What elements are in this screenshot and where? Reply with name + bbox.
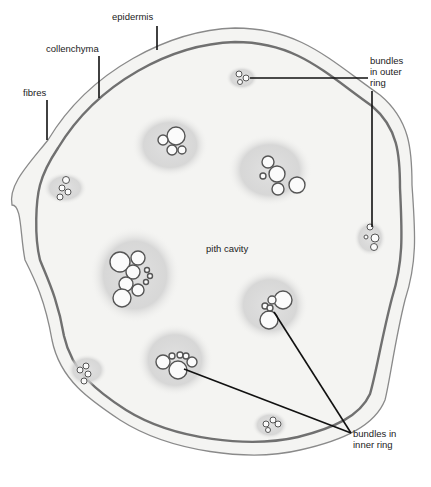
label-fibres: fibres [23,87,46,98]
label-collenchyma: collenchyma [46,43,99,54]
stem-cross-section-diagram: epidermis collenchyma fibres bundles in … [0,0,431,487]
label-pith-cavity: pith cavity [206,243,248,254]
label-epidermis: epidermis [112,11,153,22]
label-bundles-inner-ring: bundles in inner ring [353,428,396,450]
label-bundles-outer-ring: bundles in outer ring [370,55,403,88]
